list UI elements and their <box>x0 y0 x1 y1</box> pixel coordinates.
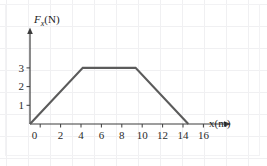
y-tick-label-1: 1 <box>19 99 25 111</box>
y-axis-arrow-icon <box>27 28 33 35</box>
x-tick-label-12: 12 <box>157 129 168 141</box>
x-axis-title: x(m) <box>209 117 231 130</box>
y-tick-label-3: 3 <box>19 62 25 74</box>
x-tick-label-0: 0 <box>32 129 38 141</box>
x-tick-label-2: 2 <box>58 129 64 141</box>
force-position-chart: 0 2 4 6 8 10 12 14 16 1 2 3 x(m) Fx(N) <box>0 0 267 166</box>
force-data-line <box>30 68 188 124</box>
x-tick-label-14: 14 <box>178 129 190 141</box>
y-tick-labels: 1 2 3 <box>19 62 25 111</box>
x-tick-label-8: 8 <box>119 129 125 141</box>
svg-text:Fx(N): Fx(N) <box>33 13 60 28</box>
chart-canvas: 0 2 4 6 8 10 12 14 16 1 2 3 x(m) Fx(N) <box>0 0 267 166</box>
x-tick-label-10: 10 <box>137 129 149 141</box>
x-tick-label-6: 6 <box>99 129 105 141</box>
axis-group <box>27 28 231 127</box>
x-tick-label-16: 16 <box>198 129 210 141</box>
y-axis-title-unit: (N) <box>44 13 60 26</box>
y-tick-label-2: 2 <box>19 80 25 92</box>
x-tick-labels: 0 2 4 6 8 10 12 14 16 <box>32 129 210 141</box>
x-tick-label-4: 4 <box>78 129 84 141</box>
y-axis-title: Fx(N) <box>33 13 60 28</box>
